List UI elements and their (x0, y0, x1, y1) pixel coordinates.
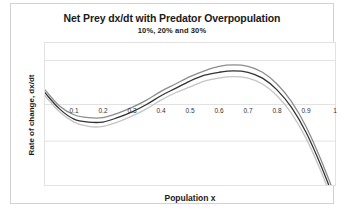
x-axis-title: Population x (44, 193, 336, 203)
x-tick-label: 0.2 (98, 107, 107, 115)
series-line-30pct (45, 77, 335, 185)
x-tick-label: 0.4 (156, 107, 165, 115)
x-tick-label: 0.1 (69, 107, 78, 115)
x-tick-label: 0.9 (301, 107, 310, 115)
x-tick-label: 0.5 (185, 107, 194, 115)
x-tick-label: 0.7 (243, 107, 252, 115)
x-tick-label: 0.3 (127, 107, 136, 115)
chart-frame: Net Prey dx/dt with Predator Overpopulat… (10, 3, 334, 204)
y-axis-title: Rate of change, dx/dt (25, 45, 38, 185)
chart-title: Net Prey dx/dt with Predator Overpopulat… (11, 12, 333, 24)
series-line-20pct (45, 71, 335, 185)
series-line-10pct (45, 65, 335, 185)
x-tick-label: 1 (333, 107, 337, 115)
chart-subtitle: 10%, 20% and 30% (11, 26, 333, 35)
x-tick-label: 0.8 (272, 107, 281, 115)
x-tick-label: 0.6 (214, 107, 223, 115)
